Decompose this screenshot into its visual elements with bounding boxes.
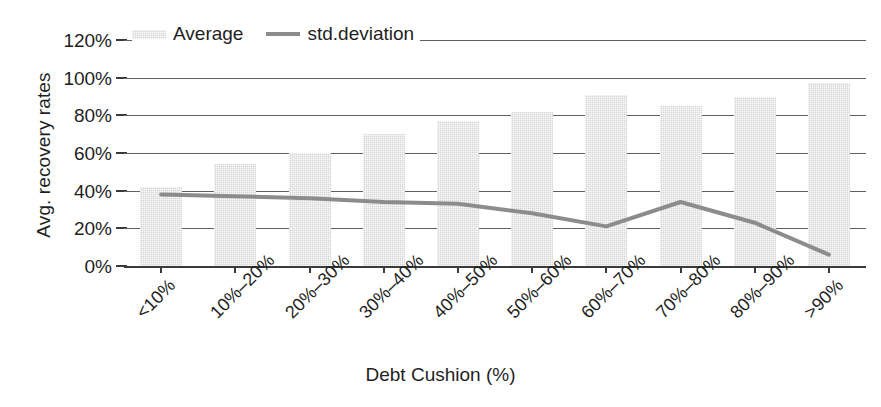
y-tick-label: 0% bbox=[42, 257, 112, 276]
x-tick-mark bbox=[605, 266, 607, 273]
y-tick-label: 100% bbox=[42, 68, 112, 87]
plot-area bbox=[124, 40, 866, 266]
y-tick-label: 40% bbox=[42, 181, 112, 200]
x-tick-mark bbox=[309, 266, 311, 273]
std-deviation-polyline bbox=[161, 194, 829, 254]
x-tick-label: <10% bbox=[132, 275, 180, 323]
x-tick-mark bbox=[234, 266, 236, 273]
legend-item-average[interactable]: Average bbox=[132, 23, 243, 45]
bar-swatch-icon bbox=[132, 30, 166, 39]
x-tick-label: >90% bbox=[800, 275, 848, 323]
x-tick-mark bbox=[754, 266, 756, 273]
x-tick-mark bbox=[680, 266, 682, 273]
x-tick-mark bbox=[531, 266, 533, 273]
chart-legend: Average std.deviation bbox=[132, 23, 420, 45]
line-swatch-icon bbox=[266, 32, 300, 36]
x-tick-mark bbox=[828, 266, 830, 273]
legend-label-std-deviation: std.deviation bbox=[307, 23, 414, 45]
recovery-rates-chart: Avg. recovery rates 120%100%80%60%40%20%… bbox=[0, 0, 881, 407]
x-tick-mark bbox=[457, 266, 459, 273]
y-tick-label: 20% bbox=[42, 219, 112, 238]
y-tick-label: 80% bbox=[42, 106, 112, 125]
y-axis-ticks: 120%100%80%60%40%20%0% bbox=[42, 0, 112, 407]
line-series-std-deviation bbox=[124, 40, 866, 266]
y-tick-label: 60% bbox=[42, 144, 112, 163]
x-axis-title: Debt Cushion (%) bbox=[0, 364, 881, 386]
x-tick-mark bbox=[383, 266, 385, 273]
y-tick-label: 120% bbox=[42, 31, 112, 50]
legend-item-std-deviation[interactable]: std.deviation bbox=[266, 23, 414, 45]
x-tick-mark bbox=[160, 266, 162, 273]
legend-label-average: Average bbox=[173, 23, 243, 45]
